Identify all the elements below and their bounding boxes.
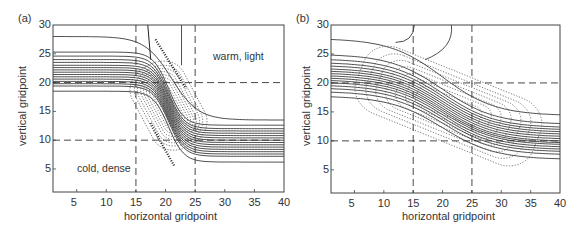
panel-b-ytick: 15 — [315, 105, 329, 117]
solid-isoline — [53, 77, 284, 147]
panel-b-xtick: 20 — [437, 197, 449, 209]
panel-b-xtick: 25 — [466, 197, 478, 209]
solid-isoline — [331, 83, 560, 147]
panel-a-xtick: 10 — [100, 196, 112, 208]
panel-b-xtick: 10 — [378, 197, 390, 209]
solid-isoline — [53, 84, 284, 154]
solid-isoline — [331, 74, 560, 139]
panel-b-ytick: 20 — [315, 76, 329, 88]
panel-a-xtick: 25 — [189, 196, 201, 208]
dotted-contour — [370, 54, 527, 158]
annotation-warm-light: warm, light — [213, 50, 264, 62]
panel-b-xtick: 40 — [554, 197, 566, 209]
panel-b-ylabel: vertical gridpoint — [300, 66, 312, 146]
solid-isoline — [53, 56, 284, 129]
panel-a-ytick: 5 — [37, 162, 51, 174]
panel-a-xtick: 40 — [278, 196, 290, 208]
panel-a-ytick: 10 — [37, 133, 51, 145]
panel-b-ytick: 5 — [315, 163, 329, 175]
solid-isoline — [331, 76, 560, 141]
panel-a-xtick: 30 — [219, 196, 231, 208]
panel-b-label: (b) — [296, 12, 309, 24]
annotation-cold-dense: cold, dense — [77, 162, 131, 174]
panel-a-ytick: 25 — [37, 47, 51, 59]
panel-a-xlabel: horizontal gridpoint — [124, 210, 217, 222]
dotted-contour — [347, 38, 549, 174]
panel-b-xtick: 5 — [348, 197, 354, 209]
panel-b-ytick: 25 — [315, 47, 329, 59]
panel-b-xtick: 30 — [495, 197, 507, 209]
panel-b-axes-frame — [331, 25, 560, 193]
panel-b-xtick: 15 — [407, 197, 419, 209]
panel-b-ytick: 10 — [315, 134, 329, 146]
panel-a-xtick: 15 — [130, 196, 142, 208]
panel-a-xtick: 5 — [71, 196, 77, 208]
panel-b-xlabel: horizontal gridpoint — [402, 210, 495, 222]
panel-b-plot — [331, 25, 560, 193]
panel-a-ytick: 15 — [37, 104, 51, 116]
panel-a-ytick: 20 — [37, 76, 51, 88]
solid-isoline — [53, 75, 284, 145]
panel-b-ytick: 30 — [315, 18, 329, 30]
panel-a-ylabel: vertical gridpoint — [16, 66, 28, 146]
solid-isoline — [53, 70, 284, 140]
panel-b-xtick: 35 — [525, 197, 537, 209]
panel-a-xtick: 20 — [160, 196, 172, 208]
panel-a-xtick: 35 — [248, 196, 260, 208]
panel-a-label: (a) — [18, 12, 31, 24]
panel-a-ytick: 30 — [37, 18, 51, 30]
